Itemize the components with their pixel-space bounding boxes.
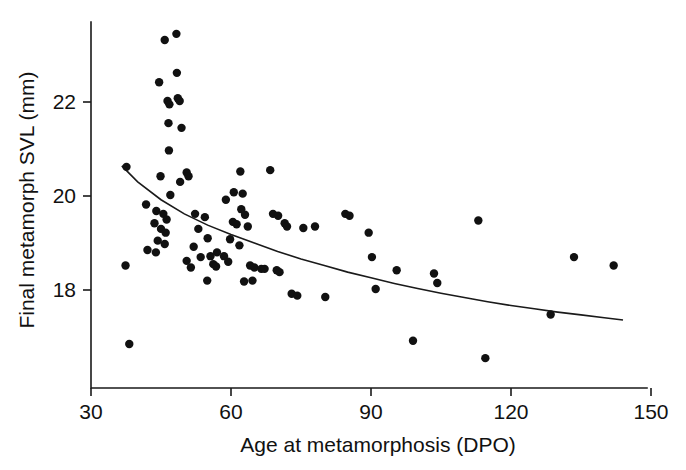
data-point [222,196,230,204]
data-point [481,354,489,362]
y-axis-title: Final metamorph SVL (mm) [15,71,38,328]
data-point [230,188,238,196]
data-point [311,222,319,230]
y-axis-tick-labels: 182022 [53,90,76,301]
data-point [248,276,256,284]
data-point [474,216,482,224]
x-tick-label: 30 [79,400,102,423]
y-tick-label: 20 [53,184,76,207]
tick-marks [83,102,651,396]
data-point [196,253,204,261]
data-point [142,200,150,208]
chart-canvas: 306090120150 182022 Age at metamorphosis… [0,0,686,470]
data-point [203,234,211,242]
x-tick-label: 60 [219,400,242,423]
data-point [156,172,164,180]
data-point [240,277,248,285]
data-point [238,189,246,197]
data-point [368,253,376,261]
data-point [201,213,209,221]
data-point [345,212,353,220]
fit-curve [122,166,623,320]
data-point [161,36,169,44]
data-point [235,241,243,249]
regression-curve [122,166,623,320]
axes [91,22,647,388]
data-point [274,212,282,220]
data-point [321,293,329,301]
data-point [164,119,172,127]
data-point [165,100,173,108]
data-point [191,210,199,218]
data-point [232,220,240,228]
data-point [212,262,220,270]
data-point [176,178,184,186]
data-point [275,268,283,276]
x-tick-label: 90 [359,400,382,423]
x-tick-label: 150 [633,400,668,423]
data-point [299,224,307,232]
data-point [121,261,129,269]
x-axis-title: Age at metamorphosis (DPO) [240,433,515,456]
data-point [172,30,180,38]
data-point [609,261,617,269]
data-point [570,253,578,261]
data-point [283,222,291,230]
data-point [143,246,151,254]
data-point [161,240,169,248]
data-point [266,166,274,174]
data-point [122,163,130,171]
axis-spines [91,22,647,388]
data-point [166,191,174,199]
data-point [177,124,185,132]
y-tick-label: 22 [53,90,76,113]
data-point [152,248,160,256]
x-tick-label: 120 [493,400,528,423]
data-point [226,235,234,243]
data-point [250,263,258,271]
data-point [371,285,379,293]
data-point [260,265,268,273]
data-point [187,263,195,271]
data-point [433,279,441,287]
data-point [392,266,400,274]
data-point [165,146,173,154]
data-points [121,30,618,363]
data-point [150,219,158,227]
data-point [189,243,197,251]
data-point [162,215,170,223]
data-point [241,211,249,219]
data-point [194,225,202,233]
data-point [203,276,211,284]
y-tick-label: 18 [53,278,76,301]
data-point [364,228,372,236]
data-point [184,172,192,180]
data-point [155,78,163,86]
data-point [173,69,181,77]
data-point [175,97,183,105]
data-point [236,167,244,175]
data-point [125,340,133,348]
x-axis-tick-labels: 306090120150 [79,400,668,423]
data-point [161,228,169,236]
data-point [293,291,301,299]
data-point [546,310,554,318]
data-point [244,222,252,230]
data-point [224,258,232,266]
data-point [409,337,417,345]
scatter-plot-figure: 306090120150 182022 Age at metamorphosis… [0,0,686,470]
data-point [430,269,438,277]
